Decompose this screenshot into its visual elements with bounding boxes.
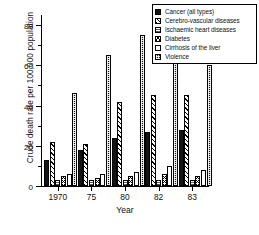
bar	[72, 93, 77, 186]
y-axis-minor-tick	[38, 85, 41, 86]
legend-item: Cerebro-vascular diseases	[155, 16, 253, 25]
bar	[106, 55, 111, 186]
legend-swatch-icon	[155, 9, 161, 15]
legend-item: Cirrhosis of the liver	[155, 43, 253, 52]
y-axis-tick-label: 80	[24, 22, 33, 31]
bar	[83, 144, 88, 186]
bar	[128, 176, 133, 186]
bar	[61, 176, 66, 186]
y-axis-tick	[36, 106, 41, 107]
x-axis-tick-label: 82	[154, 192, 163, 202]
bar-group	[78, 15, 111, 186]
legend-label: Cancer (all types)	[165, 8, 214, 15]
bar-chart-figure: Crude death rate per 100,000 population …	[0, 0, 259, 235]
x-axis-tick	[91, 187, 92, 191]
bar-group	[112, 15, 145, 186]
y-axis-tick-label: 0	[29, 183, 33, 192]
bar	[95, 178, 100, 186]
legend-item: Diabetes	[155, 34, 253, 43]
x-axis-tick-label: 83	[188, 192, 197, 202]
y-axis-minor-tick	[38, 45, 41, 46]
bar	[151, 95, 156, 186]
bar	[134, 172, 139, 186]
y-axis-minor-tick	[38, 126, 41, 127]
bar	[167, 166, 172, 186]
y-axis-tick-label: 20	[24, 142, 33, 151]
bar	[207, 65, 212, 186]
y-axis-minor-tick	[38, 166, 41, 167]
bar	[162, 174, 167, 186]
legend-swatch-icon	[155, 27, 161, 33]
legend-swatch-icon	[155, 18, 161, 24]
x-axis-tick-label: 75	[87, 192, 96, 202]
bar	[78, 150, 83, 186]
legend-swatch-icon	[155, 45, 161, 51]
chart-legend: Cancer (all types)Cerebro-vascular disea…	[152, 4, 257, 64]
legend-label: Ischaemic heart diseases	[165, 26, 236, 33]
legend-item: Ischaemic heart diseases	[155, 25, 253, 34]
x-axis-tick	[58, 187, 59, 191]
y-axis-tick	[36, 186, 41, 187]
x-axis-tick	[159, 187, 160, 191]
bar	[117, 102, 122, 186]
x-axis-tick	[125, 187, 126, 191]
legend-label: Cirrhosis of the liver	[165, 44, 220, 51]
bar	[67, 174, 72, 186]
bar	[100, 174, 105, 186]
legend-item: Cancer (all types)	[155, 7, 253, 16]
legend-label: Violence	[165, 53, 189, 60]
bar	[190, 180, 195, 186]
legend-swatch-icon	[155, 36, 161, 42]
bar	[179, 130, 184, 186]
bar	[195, 176, 200, 186]
bar	[201, 170, 206, 186]
x-axis-tick-label: 80	[120, 192, 129, 202]
bar	[44, 160, 49, 186]
bar	[173, 59, 178, 186]
bar	[156, 180, 161, 186]
bar	[123, 180, 128, 186]
bar	[184, 95, 189, 186]
x-axis-tick-label: 1970	[48, 192, 67, 202]
x-axis-title: Year	[41, 205, 209, 215]
bar	[50, 142, 55, 186]
y-axis-tick	[36, 25, 41, 26]
y-axis-tick-label: 40	[24, 102, 33, 111]
x-axis-tick	[192, 187, 193, 191]
bar	[140, 35, 145, 186]
legend-label: Diabetes	[165, 35, 190, 42]
legend-swatch-icon	[155, 54, 161, 60]
bar	[145, 132, 150, 186]
bar	[55, 180, 60, 186]
legend-item: Violence	[155, 52, 253, 61]
legend-label: Cerebro-vascular diseases	[165, 17, 240, 24]
bar	[89, 180, 94, 186]
bar-group	[44, 15, 77, 186]
y-axis-tick	[36, 65, 41, 66]
y-axis-line	[41, 15, 42, 187]
bar	[112, 138, 117, 186]
y-axis-tick-label: 60	[24, 62, 33, 71]
y-axis-tick	[36, 146, 41, 147]
